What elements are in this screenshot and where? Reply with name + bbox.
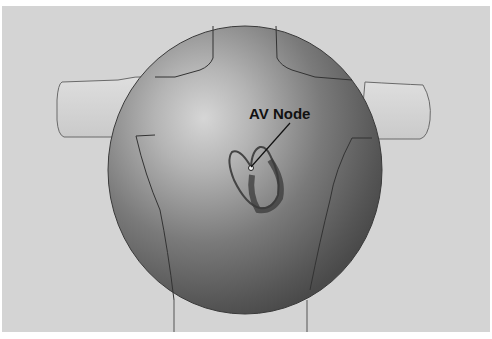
torso-sphere — [108, 26, 382, 314]
av-node-label: AV Node — [249, 105, 310, 122]
heart-diagram — [0, 0, 492, 339]
